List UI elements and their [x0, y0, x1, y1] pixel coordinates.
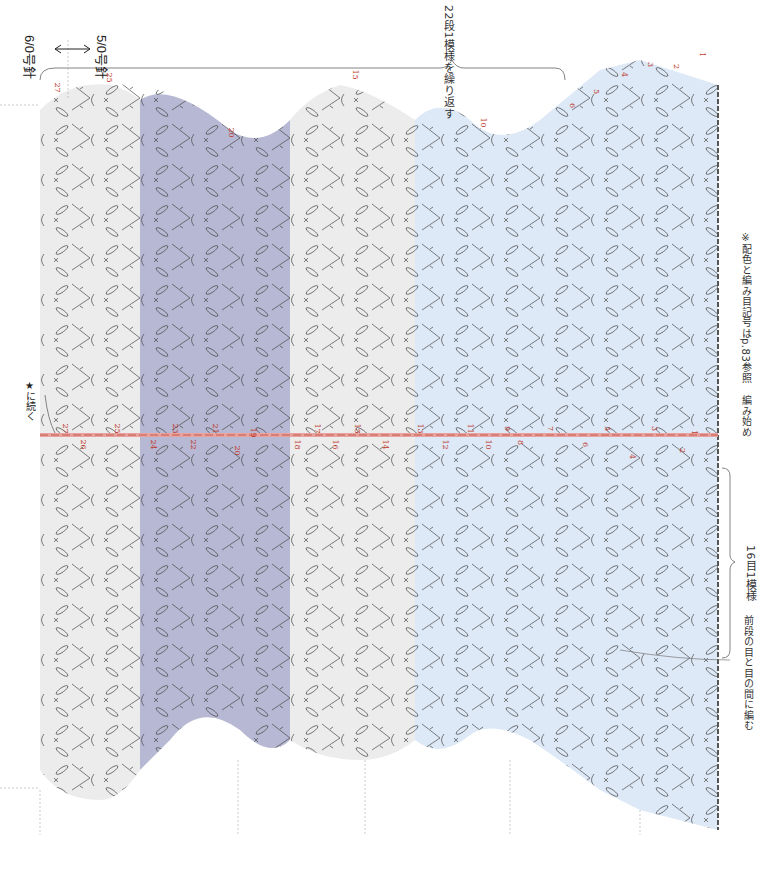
center-row-20: 20	[233, 445, 242, 455]
row-marker-27: 27	[53, 82, 62, 92]
center-row-17: 17	[313, 423, 322, 433]
center-row-26: 26	[79, 439, 88, 449]
center-row-14: 14	[381, 439, 390, 449]
center-row-4: 4	[628, 454, 637, 459]
center-row-19: 19	[249, 427, 258, 437]
center-row-22: 22	[189, 439, 198, 449]
row-marker-10: 10	[479, 117, 488, 127]
center-row-5: 5	[603, 426, 612, 431]
center-row-21: 21	[211, 423, 220, 433]
start-label: 編み始め	[738, 395, 753, 437]
center-row-8: 8	[516, 440, 525, 445]
center-row-2: 2	[678, 448, 687, 453]
center-row-6: 6	[581, 442, 590, 447]
center-row-1: 1	[690, 430, 699, 435]
center-row-25: 25	[113, 423, 122, 433]
center-row-11: 11	[466, 423, 475, 433]
repeat-brace	[40, 60, 565, 80]
row-marker-4: 4	[620, 72, 629, 77]
chart-graphic	[0, 0, 767, 874]
row-marker-15: 15	[351, 69, 360, 79]
center-row-9: 9	[503, 426, 512, 431]
center-row-24: 24	[149, 439, 158, 449]
row-marker-2: 2	[672, 64, 681, 69]
crochet-chart: 6/0号針 5/0号針 22段1模様を繰り返す ※配色と編み目記号はp.83参照…	[0, 0, 767, 874]
center-row-16: 16	[331, 439, 340, 449]
center-row-27: 27	[61, 423, 70, 433]
pattern-repeat-label: 16目1模様	[742, 545, 758, 602]
center-row-18: 18	[293, 439, 302, 449]
center-row-23: 23	[171, 423, 180, 433]
row-marker-3: 3	[646, 62, 655, 67]
center-row-13: 13	[416, 423, 425, 433]
needle-label-6-0: 6/0号針	[21, 35, 40, 79]
row-marker-25: 25	[105, 72, 114, 82]
center-row-7: 7	[546, 426, 555, 431]
center-row-10: 10	[484, 439, 493, 449]
center-row-3: 3	[650, 426, 659, 431]
center-row-15: 15	[353, 423, 362, 433]
continue-note: ★に続く	[22, 380, 37, 421]
between-note: 前段の目と目の間に編む	[740, 615, 755, 731]
repeat-note: 22段1模様を繰り返す	[440, 5, 456, 120]
center-row-12: 12	[441, 439, 450, 449]
color-note: ※配色と編み目記号はp.83参照	[738, 232, 753, 383]
row-marker-20: 20	[227, 127, 236, 137]
row-marker-5: 5	[592, 89, 601, 94]
row-marker-1: 1	[698, 52, 707, 57]
row-marker-6: 6	[568, 103, 577, 108]
